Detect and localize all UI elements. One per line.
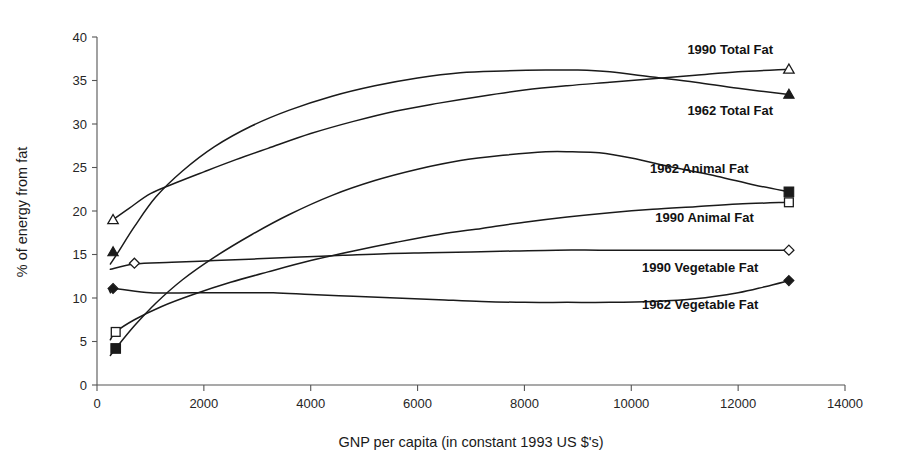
series-label-5: 1962 Vegetable Fat bbox=[642, 297, 759, 312]
series-line-0 bbox=[113, 69, 789, 220]
y-tick-label: 5 bbox=[80, 334, 87, 349]
y-tick-label: 15 bbox=[73, 247, 87, 262]
marker-diamond-open bbox=[784, 245, 794, 255]
x-tick-label: 8000 bbox=[510, 396, 539, 411]
y-tick-label: 30 bbox=[73, 117, 87, 132]
series-label-2: 1962 Animal Fat bbox=[650, 161, 749, 176]
series-label-3: 1990 Animal Fat bbox=[655, 210, 754, 225]
marker-square-open bbox=[111, 328, 120, 337]
x-tick-label: 4000 bbox=[296, 396, 325, 411]
y-tick-label: 20 bbox=[73, 204, 87, 219]
marker-square-open bbox=[785, 198, 794, 207]
chart-canvas: 0510152025303540020004000600080001000012… bbox=[0, 0, 904, 464]
marker-triangle-open bbox=[108, 215, 118, 224]
series-label-4: 1990 Vegetable Fat bbox=[642, 260, 759, 275]
x-axis-title: GNP per capita (in constant 1993 US $'s) bbox=[338, 434, 603, 450]
y-tick-label: 0 bbox=[80, 378, 87, 393]
x-tick-label: 10000 bbox=[613, 396, 649, 411]
y-tick-label: 10 bbox=[73, 291, 87, 306]
y-axis-title: % of energy from fat bbox=[14, 147, 30, 278]
x-tick-label: 12000 bbox=[720, 396, 756, 411]
marker-square-filled bbox=[784, 187, 794, 197]
y-tick-label: 35 bbox=[73, 73, 87, 88]
marker-square-filled bbox=[111, 344, 121, 354]
fat-energy-line-chart: 0510152025303540020004000600080001000012… bbox=[0, 0, 904, 464]
series-line-2 bbox=[110, 152, 789, 356]
series-label-layer: 1990 Total Fat1962 Total Fat1962 Animal … bbox=[642, 42, 774, 312]
y-tick-label: 40 bbox=[73, 30, 87, 45]
marker-diamond-open bbox=[129, 258, 139, 268]
x-tick-label: 2000 bbox=[189, 396, 218, 411]
x-tick-label: 6000 bbox=[403, 396, 432, 411]
marker-triangle-open bbox=[784, 64, 794, 73]
series-label-1: 1962 Total Fat bbox=[687, 103, 773, 118]
x-tick-label: 14000 bbox=[827, 396, 863, 411]
y-tick-label: 25 bbox=[73, 160, 87, 175]
series-label-0: 1990 Total Fat bbox=[687, 42, 773, 57]
x-tick-label: 0 bbox=[93, 396, 100, 411]
marker-triangle-filled bbox=[108, 247, 118, 256]
marker-diamond-filled bbox=[784, 276, 794, 286]
